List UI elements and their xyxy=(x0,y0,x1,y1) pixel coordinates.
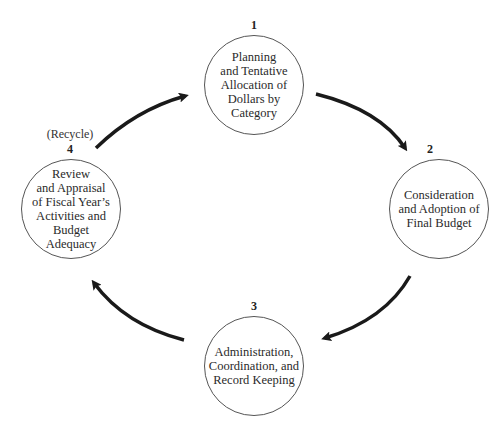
step-node-administration: Administration, Coordination, and Record… xyxy=(204,316,304,416)
step-label-administration: Administration, Coordination, and Record… xyxy=(209,345,299,387)
step-node-adoption: Consideration and Adoption of Final Budg… xyxy=(389,159,489,259)
arrow-1-to-2 xyxy=(316,94,405,148)
arrow-2-to-3 xyxy=(325,276,410,338)
step-label-adoption: Consideration and Adoption of Final Budg… xyxy=(398,188,479,230)
step-label-planning: Planning and Tentative Allocation of Dol… xyxy=(220,50,287,120)
step-number-1: 1 xyxy=(234,18,274,33)
step-node-planning: Planning and Tentative Allocation of Dol… xyxy=(204,35,304,135)
step-node-review: Review and Appraisal of Fiscal Year’s Ac… xyxy=(21,159,121,259)
step-number-2: 2 xyxy=(410,142,450,157)
step-number-3: 3 xyxy=(234,299,274,314)
step-number-4: 4 xyxy=(50,142,90,157)
arrow-3-to-4 xyxy=(94,283,184,340)
step-label-review: Review and Appraisal of Fiscal Year’s Ac… xyxy=(32,167,110,251)
recycle-note: (Recycle) xyxy=(30,127,110,142)
